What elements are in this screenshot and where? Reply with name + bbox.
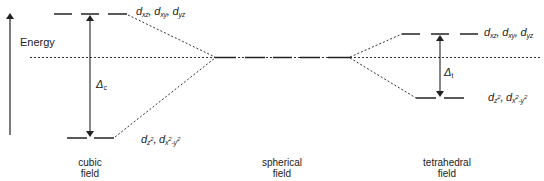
tetrahedral-e-connector (350, 58, 416, 98)
tetrahedral-e-orbital-label: dz2, dx2-y2 (488, 91, 527, 104)
spherical-field-label: sphericalfield (252, 157, 312, 179)
cubic-t2-orbital-label: dxz, dxy, dyz (136, 5, 185, 18)
energy-axis-label: Energy (20, 36, 55, 48)
tetrahedral-t2-connector (350, 34, 402, 57)
tetrahedral-splitting-label: Δt (444, 66, 453, 79)
crystal-field-splitting-diagram: Energy dxz, dxy, dyz dz2, dx2-y2 dxz, dx… (0, 0, 544, 181)
cubic-t2-connector (128, 15, 215, 57)
cubic-e-connector (115, 58, 215, 137)
diagram-lines (0, 0, 544, 181)
cubic-e-orbital-label: dz2, dx2-y2 (141, 133, 180, 146)
cubic-splitting-label: Δc (96, 78, 107, 91)
cubic-field-label: cubicfield (68, 157, 112, 179)
tetrahedral-field-label: tetrahedralfield (412, 157, 482, 179)
tetrahedral-t2-orbital-label: dxz, dxy, dyz (484, 26, 533, 39)
